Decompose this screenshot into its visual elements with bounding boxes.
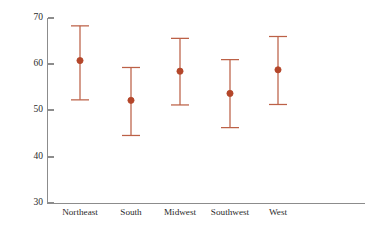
data-point-west xyxy=(275,67,281,73)
y-tick-labels: 70 60 50 40 30 xyxy=(34,12,44,207)
data-point-midwest xyxy=(177,68,183,74)
data-point-northeast xyxy=(77,57,83,63)
error-bars-group xyxy=(71,26,287,136)
y-axis-label-40: 40 xyxy=(34,151,44,161)
x-axis-label-west: West xyxy=(269,207,288,217)
chart-canvas: 70 60 50 40 30 Northeast South Midwest S… xyxy=(0,0,387,240)
error-bar-southwest xyxy=(221,60,239,128)
x-axis-label-south: South xyxy=(120,207,142,217)
error-bar-south xyxy=(122,67,140,135)
error-bar-midwest xyxy=(171,38,189,105)
y-axis-label-70: 70 xyxy=(34,12,44,22)
x-category-labels: Northeast South Midwest Southwest West xyxy=(62,207,287,217)
errorbar-chart: 70 60 50 40 30 Northeast South Midwest S… xyxy=(0,0,387,240)
y-tick-marks xyxy=(48,18,55,203)
x-axis-label-northeast: Northeast xyxy=(62,207,98,217)
x-axis-label-midwest: Midwest xyxy=(164,207,197,217)
y-axis-label-60: 60 xyxy=(34,58,44,68)
y-axis-label-50: 50 xyxy=(34,104,44,114)
error-bar-west xyxy=(269,37,287,105)
error-bar-northeast xyxy=(71,26,89,100)
x-axis-label-southwest: Southwest xyxy=(211,207,250,217)
data-point-southwest xyxy=(227,90,233,96)
data-point-south xyxy=(128,97,134,103)
axis-group xyxy=(48,18,366,204)
y-axis-label-30: 30 xyxy=(34,197,44,207)
